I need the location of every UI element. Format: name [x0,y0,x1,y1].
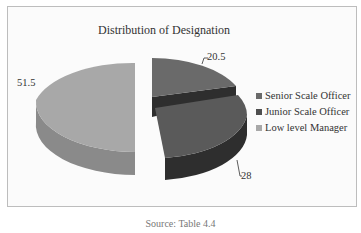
legend-item-senior: Senior Scale Officer [256,88,351,104]
data-label-junior: 28 [241,170,252,181]
legend-item-junior: Junior Scale Officer [256,104,351,120]
legend-label: Junior Scale Officer [265,104,349,120]
legend-swatch [256,109,262,115]
legend-label: Senior Scale Officer [265,88,351,104]
chart-legend: Senior Scale Officer Junior Scale Office… [256,88,351,136]
data-label-senior: 20.5 [207,51,225,62]
legend-swatch [256,125,262,131]
data-label-low: 51.5 [17,77,35,88]
legend-swatch [256,93,262,99]
figure-caption: Source: Table 4.4 [0,218,361,229]
legend-label: Low level Manager [265,120,347,136]
legend-item-low: Low level Manager [256,120,351,136]
